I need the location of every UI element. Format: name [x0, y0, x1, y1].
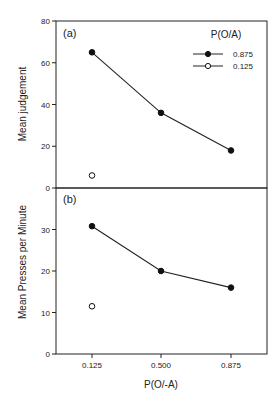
filled-data-point	[158, 110, 164, 116]
y-ticks-a: 020406080	[41, 17, 56, 193]
filled-data-point	[89, 50, 95, 56]
panel-a-label: (a)	[63, 27, 76, 39]
filled-data-point	[228, 285, 234, 291]
filled-data-point	[158, 268, 164, 274]
y-axis-label-a: Mean judgement	[17, 67, 28, 142]
y-tick-label: 20	[41, 142, 50, 151]
legend-label-filled: 0.875	[233, 50, 254, 59]
legend-filled-circle-icon	[205, 51, 210, 56]
open-data-point	[89, 303, 95, 309]
y-tick-label: 30	[41, 226, 50, 235]
x-tick-label: 0.500	[151, 361, 172, 370]
x-ticks: 0.1250.5000.875	[82, 354, 242, 370]
y-tick-label: 10	[41, 309, 50, 318]
open-data-point	[89, 173, 95, 179]
y-tick-label: 0	[46, 184, 51, 193]
y-tick-label: 0	[46, 350, 51, 359]
x-axis-label: P(O/-A)	[144, 379, 178, 390]
panel-a-frame	[56, 21, 267, 188]
y-tick-label: 60	[41, 59, 50, 68]
filled-data-point	[89, 223, 95, 229]
series-panel-b	[89, 223, 234, 309]
filled-data-point	[228, 148, 234, 154]
legend-title: P(O/A)	[211, 29, 242, 40]
y-axis-label-b: Mean Presses per Minute	[17, 205, 28, 319]
y-tick-label: 80	[41, 17, 50, 26]
legend: P(O/A) 0.875 0.125	[193, 29, 254, 71]
y-ticks-b: 0102030	[41, 226, 56, 360]
y-tick-label: 20	[41, 267, 50, 276]
legend-label-open: 0.125	[233, 62, 254, 71]
x-tick-label: 0.125	[82, 361, 103, 370]
legend-open-circle-icon	[205, 63, 210, 68]
y-tick-label: 40	[41, 101, 50, 110]
chart: (a) (b) Mean judgement Mean Presses per …	[0, 0, 279, 406]
x-tick-label: 0.875	[221, 361, 242, 370]
series-panel-a	[89, 50, 234, 179]
series-line	[92, 226, 231, 287]
panel-b-label: (b)	[63, 193, 76, 205]
